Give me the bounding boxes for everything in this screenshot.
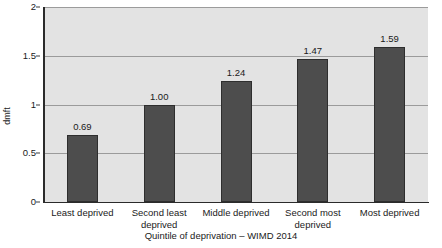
x-axis-title: Quintile of deprivation – WIMD 2014	[0, 231, 442, 241]
x-axis-category-label: Second most deprived	[276, 207, 349, 230]
bar[interactable]	[374, 47, 405, 202]
bar[interactable]	[297, 59, 328, 202]
y-axis-tick-mark	[36, 153, 40, 154]
bar[interactable]	[67, 135, 98, 202]
y-axis-line	[43, 7, 45, 203]
plot-area	[44, 7, 428, 202]
bar[interactable]	[221, 81, 252, 202]
x-axis-category-label: Most deprived	[353, 207, 426, 219]
bar-value-label: 1.59	[380, 34, 399, 44]
x-axis-line	[43, 202, 429, 204]
bar-chart: dmft 00.511.52 Quintile of deprivation –…	[0, 0, 442, 248]
y-axis-tick-mark	[36, 104, 40, 105]
bar-value-label: 0.69	[73, 122, 92, 132]
bar-value-label: 1.00	[150, 92, 169, 102]
x-axis-category-label: Middle deprived	[200, 207, 273, 219]
y-axis-tick-labels: 00.511.52	[14, 0, 40, 248]
bar-value-label: 1.24	[227, 68, 246, 78]
y-axis-tick-label: 0.5	[23, 149, 36, 159]
y-axis-tick-mark	[36, 202, 40, 203]
x-axis-category-label: Least deprived	[46, 207, 119, 219]
x-axis-category-label: Second least deprived	[123, 207, 196, 230]
gridline	[44, 56, 428, 57]
gridline	[44, 7, 428, 8]
bar[interactable]	[144, 105, 175, 203]
y-axis-tick-mark	[36, 7, 40, 8]
y-axis-tick-label: 1.5	[23, 51, 36, 61]
bar-value-label: 1.47	[304, 46, 323, 56]
y-axis-tick-mark	[36, 55, 40, 56]
